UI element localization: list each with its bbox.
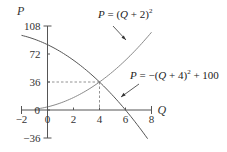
series-2-arrowhead	[121, 93, 126, 97]
eq-text: = (	[105, 8, 121, 21]
y-tick-label: −36	[23, 132, 41, 144]
series-1-label: P = (Q + 2)2	[97, 7, 153, 21]
x-tick-label: −2	[16, 113, 28, 125]
eq-text: + 2)	[128, 8, 149, 21]
x-tick-label: 0	[45, 113, 51, 125]
y-axis-title: P	[16, 4, 25, 18]
labels: P = (Q + 2)2P = −(Q + 4)2 + 100	[97, 7, 219, 97]
var-q: Q	[120, 8, 128, 20]
y-tick-label: 108	[24, 20, 41, 32]
eq-text: + 100	[191, 69, 220, 81]
x-axis-title: Q	[158, 103, 167, 117]
eq-text: + 4)	[166, 69, 187, 82]
y-tick-label: 0	[35, 104, 41, 116]
curves	[22, 32, 152, 138]
guides	[48, 82, 100, 110]
x-tick-label: 4	[97, 113, 103, 125]
var-q: Q	[158, 69, 166, 81]
y-tick-label: 72	[30, 48, 41, 60]
series-2-label: P = −(Q + 4)2 + 100	[129, 68, 219, 82]
eq-text: = −(	[137, 69, 159, 82]
x-tick-label: 8	[149, 113, 155, 125]
chart: −202468−3603672108QP P = (Q + 2)2P = −(Q…	[0, 0, 227, 152]
axes	[22, 26, 152, 138]
superscript: 2	[149, 7, 153, 15]
x-tick-label: 6	[123, 113, 129, 125]
y-tick-label: 36	[30, 76, 42, 88]
x-tick-label: 2	[71, 113, 77, 125]
